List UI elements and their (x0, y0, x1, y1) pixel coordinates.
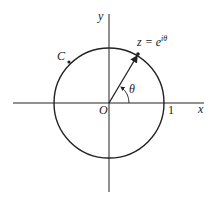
origin-label: O (99, 103, 108, 117)
unit-label: 1 (168, 103, 174, 117)
unit-circle-diagram: y x O 1 C θ z = eiθ (0, 0, 218, 197)
point-c (67, 60, 70, 63)
angle-label: θ (129, 82, 135, 96)
curve-label: C (57, 49, 66, 63)
point-z (136, 52, 140, 56)
x-axis-label: x (197, 102, 204, 116)
angle-arc (121, 87, 129, 103)
y-axis-label: y (97, 9, 104, 23)
point-z-label: z = eiθ (136, 34, 167, 49)
